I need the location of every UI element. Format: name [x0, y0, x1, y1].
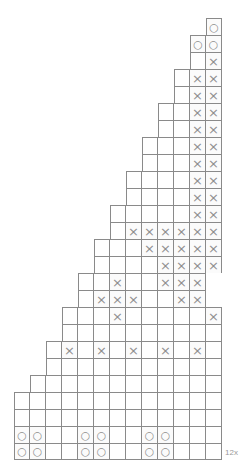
cell-empty[interactable] [110, 222, 126, 239]
cell-cross[interactable] [110, 290, 126, 307]
cell-empty[interactable] [174, 409, 190, 426]
cell-circle[interactable] [206, 35, 222, 52]
cell-empty[interactable] [174, 86, 190, 103]
cell-empty[interactable] [78, 273, 94, 290]
cell-empty[interactable] [158, 120, 174, 137]
cell-empty[interactable] [142, 341, 158, 358]
cell-empty[interactable] [78, 290, 94, 307]
cell-empty[interactable] [206, 392, 222, 409]
cell-empty[interactable] [158, 188, 174, 205]
cell-empty[interactable] [158, 171, 174, 188]
cell-empty[interactable] [78, 375, 94, 392]
cell-empty[interactable] [142, 256, 158, 273]
cell-cross[interactable] [94, 341, 110, 358]
cell-empty[interactable] [158, 375, 174, 392]
cell-empty[interactable] [206, 358, 222, 375]
cell-empty[interactable] [142, 205, 158, 222]
cell-circle[interactable] [206, 18, 222, 35]
cell-empty[interactable] [158, 290, 174, 307]
cell-empty[interactable] [206, 409, 222, 426]
cell-empty[interactable] [126, 171, 142, 188]
cell-empty[interactable] [190, 375, 206, 392]
cell-empty[interactable] [142, 273, 158, 290]
cell-empty[interactable] [174, 426, 190, 443]
cell-cross[interactable] [94, 290, 110, 307]
cell-cross[interactable] [190, 137, 206, 154]
cell-circle[interactable] [30, 426, 46, 443]
cell-empty[interactable] [94, 273, 110, 290]
cell-empty[interactable] [78, 307, 94, 324]
cell-empty[interactable] [110, 256, 126, 273]
cell-empty[interactable] [158, 103, 174, 120]
cell-cross[interactable] [174, 273, 190, 290]
cell-empty[interactable] [190, 324, 206, 341]
cell-cross[interactable] [190, 290, 206, 307]
cell-empty[interactable] [46, 392, 62, 409]
cell-empty[interactable] [14, 392, 30, 409]
cell-cross[interactable] [158, 239, 174, 256]
cell-empty[interactable] [142, 137, 158, 154]
cell-circle[interactable] [190, 35, 206, 52]
cell-empty[interactable] [190, 307, 206, 324]
cell-circle[interactable] [14, 443, 30, 460]
cell-empty[interactable] [190, 426, 206, 443]
cell-empty[interactable] [78, 341, 94, 358]
cell-empty[interactable] [190, 52, 206, 69]
cell-empty[interactable] [110, 375, 126, 392]
cell-circle[interactable] [158, 443, 174, 460]
cell-cross[interactable] [190, 69, 206, 86]
cell-cross[interactable] [110, 273, 126, 290]
cell-circle[interactable] [78, 426, 94, 443]
cell-empty[interactable] [158, 137, 174, 154]
cell-empty[interactable] [94, 358, 110, 375]
cell-empty[interactable] [206, 324, 222, 341]
cell-cross[interactable] [190, 239, 206, 256]
cell-cross[interactable] [174, 222, 190, 239]
cell-cross[interactable] [206, 86, 222, 103]
cell-empty[interactable] [62, 392, 78, 409]
cell-empty[interactable] [30, 375, 46, 392]
cell-empty[interactable] [94, 375, 110, 392]
cell-empty[interactable] [78, 392, 94, 409]
cell-cross[interactable] [190, 171, 206, 188]
cell-empty[interactable] [62, 358, 78, 375]
cell-empty[interactable] [174, 137, 190, 154]
cell-empty[interactable] [158, 307, 174, 324]
cell-cross[interactable] [174, 256, 190, 273]
cell-empty[interactable] [126, 426, 142, 443]
cell-empty[interactable] [126, 239, 142, 256]
cell-cross[interactable] [126, 290, 142, 307]
cell-cross[interactable] [206, 188, 222, 205]
cell-empty[interactable] [46, 409, 62, 426]
cell-empty[interactable] [94, 307, 110, 324]
cell-cross[interactable] [206, 222, 222, 239]
cell-cross[interactable] [110, 307, 126, 324]
cell-empty[interactable] [158, 392, 174, 409]
cell-empty[interactable] [174, 324, 190, 341]
cell-empty[interactable] [126, 409, 142, 426]
cell-empty[interactable] [78, 358, 94, 375]
cell-empty[interactable] [174, 375, 190, 392]
cell-empty[interactable] [110, 239, 126, 256]
cell-empty[interactable] [126, 392, 142, 409]
cell-cross[interactable] [206, 171, 222, 188]
cell-empty[interactable] [158, 205, 174, 222]
cell-cross[interactable] [206, 205, 222, 222]
cell-empty[interactable] [94, 256, 110, 273]
cell-cross[interactable] [190, 222, 206, 239]
cell-empty[interactable] [142, 409, 158, 426]
cell-circle[interactable] [158, 426, 174, 443]
cell-cross[interactable] [206, 69, 222, 86]
cell-empty[interactable] [126, 307, 142, 324]
cell-circle[interactable] [142, 443, 158, 460]
cell-empty[interactable] [174, 443, 190, 460]
cell-empty[interactable] [158, 358, 174, 375]
cell-cross[interactable] [206, 256, 222, 273]
cell-empty[interactable] [174, 341, 190, 358]
cell-empty[interactable] [46, 358, 62, 375]
cell-empty[interactable] [174, 120, 190, 137]
cell-empty[interactable] [142, 154, 158, 171]
cell-empty[interactable] [46, 341, 62, 358]
cell-cross[interactable] [190, 154, 206, 171]
cell-cross[interactable] [62, 341, 78, 358]
